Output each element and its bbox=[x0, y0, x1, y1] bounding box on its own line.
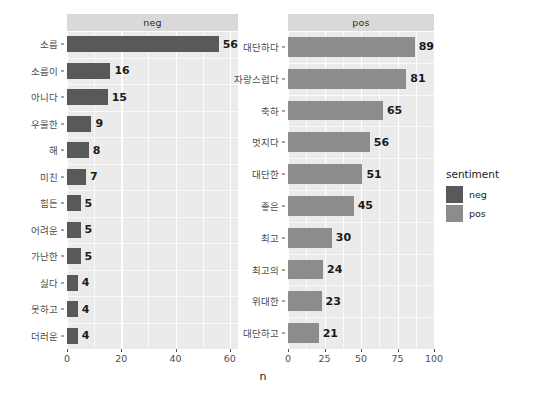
bar-group: 21 bbox=[288, 323, 434, 343]
bar-value-label: 30 bbox=[336, 231, 351, 244]
x-axis-tick-mark bbox=[325, 349, 326, 352]
bar-value-label: 5 bbox=[85, 197, 93, 210]
bar-value-label: 16 bbox=[114, 64, 129, 77]
bar-value-label: 5 bbox=[85, 250, 93, 263]
bar bbox=[288, 101, 383, 121]
x-axis-tick-label: 100 bbox=[425, 353, 443, 364]
bar-group: 81 bbox=[288, 69, 434, 89]
y-axis-tick-mark bbox=[282, 333, 285, 334]
bar-value-label: 21 bbox=[323, 327, 338, 340]
bar-value-label: 4 bbox=[82, 303, 90, 316]
y-axis-tick-mark bbox=[61, 309, 64, 310]
x-axis-tick-mark bbox=[67, 349, 68, 352]
bar-value-label: 51 bbox=[366, 168, 381, 181]
bar-value-label: 7 bbox=[90, 170, 98, 183]
x-axis-tick-label: 20 bbox=[115, 353, 127, 364]
legend-item: pos bbox=[446, 204, 546, 223]
facet-panel-pos: pos 89816556514530242321 bbox=[288, 14, 434, 349]
bar bbox=[67, 116, 91, 132]
gridline-horizontal bbox=[67, 31, 238, 32]
bar bbox=[67, 328, 78, 344]
legend-item: neg bbox=[446, 185, 546, 204]
x-axis-tick-label: 40 bbox=[170, 353, 182, 364]
gridline-horizontal bbox=[288, 285, 434, 286]
legend-color-swatch bbox=[446, 205, 463, 222]
bar bbox=[67, 169, 86, 185]
bar-group: 51 bbox=[288, 164, 434, 184]
bar bbox=[67, 301, 78, 317]
y-axis-tick-label: 더러운 bbox=[31, 329, 58, 343]
bar-group: 7 bbox=[67, 169, 238, 185]
bar-group: 16 bbox=[67, 63, 238, 79]
y-axis-neg: 소름소름이아니다우울한해미친힘든어려운가난한싫다못하고더러운 bbox=[0, 14, 64, 349]
y-axis-tick-mark bbox=[61, 97, 64, 98]
legend-color-swatch bbox=[446, 186, 463, 203]
bar bbox=[67, 142, 89, 158]
x-axis-pos: 0255075100 bbox=[288, 349, 434, 369]
bar-value-label: 24 bbox=[327, 263, 342, 276]
y-axis-tick-mark bbox=[282, 301, 285, 302]
bar bbox=[67, 195, 81, 211]
bar bbox=[67, 275, 78, 291]
y-axis-tick-label: 못하고 bbox=[31, 302, 58, 316]
y-axis-tick-label: 아니다 bbox=[31, 90, 58, 104]
bar bbox=[288, 69, 406, 89]
gridline-horizontal bbox=[67, 323, 238, 324]
gridline-horizontal bbox=[288, 126, 434, 127]
y-axis-tick-label: 소름이 bbox=[31, 64, 58, 78]
y-axis-tick-label: 축하 bbox=[261, 104, 279, 118]
bar-value-label: 8 bbox=[93, 144, 101, 157]
bar-group: 56 bbox=[288, 132, 434, 152]
y-axis-tick-label: 대단하고 bbox=[243, 326, 279, 340]
bar-group: 8 bbox=[67, 142, 238, 158]
legend-items: negpos bbox=[446, 185, 546, 223]
y-axis-tick-label: 좋은 bbox=[261, 199, 279, 213]
gridline-horizontal bbox=[288, 95, 434, 96]
y-axis-tick-mark bbox=[61, 44, 64, 45]
gridline-horizontal bbox=[67, 164, 238, 165]
gridline-horizontal bbox=[288, 190, 434, 191]
legend-title: sentiment bbox=[446, 168, 546, 180]
y-axis-tick-label: 위대한 bbox=[252, 294, 279, 308]
bar-value-label: 15 bbox=[112, 91, 127, 104]
y-axis-pos: 대단하다자랑스럽다축하멋지다대단한좋은최고최고의위대한대단하고 bbox=[222, 14, 285, 349]
bar-value-label: 4 bbox=[82, 276, 90, 289]
bar-group: 15 bbox=[67, 89, 238, 105]
bar-group: 23 bbox=[288, 291, 434, 311]
gridline-horizontal bbox=[67, 84, 238, 85]
x-axis-title: n bbox=[0, 370, 553, 383]
x-axis-tick-mark bbox=[230, 349, 231, 352]
plot-area-neg: 561615987555444 bbox=[67, 31, 238, 349]
gridline-horizontal bbox=[67, 270, 238, 271]
bar bbox=[288, 323, 319, 343]
bar-group: 5 bbox=[67, 248, 238, 264]
x-axis-tick-mark bbox=[176, 349, 177, 352]
x-axis-tick-label: 75 bbox=[391, 353, 403, 364]
gridline-horizontal bbox=[288, 63, 434, 64]
gridline-horizontal bbox=[288, 254, 434, 255]
x-axis-tick-mark bbox=[398, 349, 399, 352]
bar-group: 4 bbox=[67, 301, 238, 317]
y-axis-tick-mark bbox=[61, 203, 64, 204]
bar-chart-figure: 소름소름이아니다우울한해미친힘든어려운가난한싫다못하고더러운 neg 56161… bbox=[0, 0, 553, 406]
bar-group: 65 bbox=[288, 101, 434, 121]
bar-value-label: 65 bbox=[387, 104, 402, 117]
y-axis-tick-label: 멋지다 bbox=[252, 135, 279, 149]
x-axis-tick-label: 0 bbox=[285, 353, 291, 364]
bar bbox=[288, 196, 354, 216]
bar-group: 45 bbox=[288, 196, 434, 216]
y-axis-tick-mark bbox=[61, 282, 64, 283]
x-axis-tick-label: 50 bbox=[355, 353, 367, 364]
bar bbox=[67, 222, 81, 238]
bar-group: 4 bbox=[67, 275, 238, 291]
x-axis-tick-label: 25 bbox=[318, 353, 330, 364]
facet-strip-label-neg: neg bbox=[67, 14, 238, 31]
gridline-horizontal bbox=[67, 137, 238, 138]
bar bbox=[288, 260, 323, 280]
gridline-horizontal bbox=[288, 317, 434, 318]
legend-item-label: pos bbox=[469, 208, 486, 219]
gridline-horizontal bbox=[67, 217, 238, 218]
legend-item-label: neg bbox=[469, 189, 487, 200]
y-axis-tick-mark bbox=[282, 142, 285, 143]
bar-value-label: 23 bbox=[326, 295, 341, 308]
